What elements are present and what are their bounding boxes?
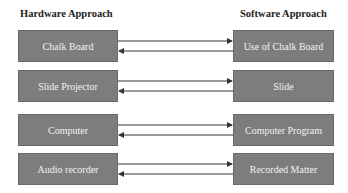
connector-arrows: [0, 0, 348, 193]
